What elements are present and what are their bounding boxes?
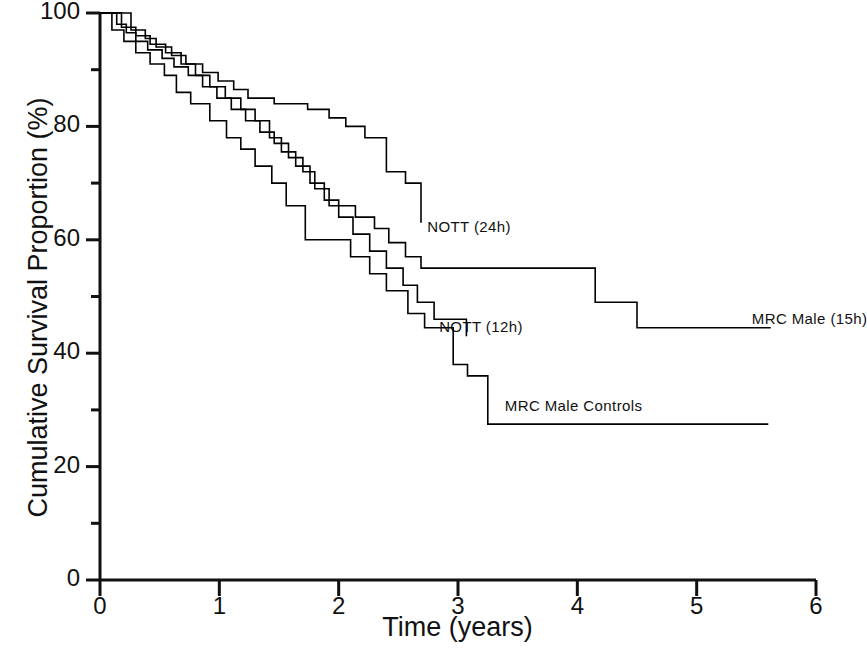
y-tick-label: 60 [0,224,80,252]
survival-curve-2 [100,13,466,336]
axis-lines [100,13,816,580]
x-tick-label: 0 [60,592,140,620]
x-tick-label: 5 [657,592,737,620]
x-tick-label: 6 [776,592,856,620]
x-tick-label: 3 [418,592,498,620]
y-tick-label: 40 [0,337,80,365]
survival-curve-1 [100,13,771,328]
y-tick-label: 100 [0,0,80,25]
y-tick-label: 0 [0,564,80,592]
y-tick-label: 80 [0,110,80,138]
x-tick-label: 2 [299,592,379,620]
curve-label-2: NOTT (12h) [439,318,523,335]
curve-label-0: NOTT (24h) [427,218,511,235]
curve-label-1: MRC Male (15h) [752,310,867,327]
axis-ticks [86,13,816,596]
y-tick-label: 20 [0,451,80,479]
curve-label-3: MRC Male Controls [505,397,643,414]
x-tick-label: 1 [179,592,259,620]
x-tick-label: 4 [537,592,617,620]
